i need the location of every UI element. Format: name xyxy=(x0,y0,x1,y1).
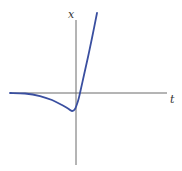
x-axis-label: x xyxy=(68,8,75,21)
t-axis-label: t xyxy=(170,93,175,106)
curve-x-of-t xyxy=(10,13,97,111)
chart: x t xyxy=(0,0,182,171)
